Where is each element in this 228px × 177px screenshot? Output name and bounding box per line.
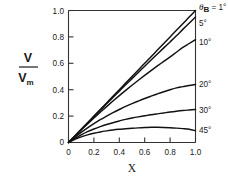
y-axis-ticklabels: 0 0.2 0.4 0.6 0.8 1.0 <box>53 7 65 148</box>
y-ticklabel-4: 0.8 <box>53 33 65 42</box>
curve-series-5 <box>69 127 196 142</box>
y-axis-ticks <box>69 11 74 143</box>
chart-legend: θB = 1° 5° 10° 20° 30° 45° <box>199 2 226 136</box>
chart-curves <box>69 11 196 143</box>
y-ticklabel-2: 0.4 <box>53 86 65 95</box>
legend-label-series-2: 10° <box>199 38 211 47</box>
x-ticklabel-0: 0 <box>66 148 71 157</box>
x-ticklabel-4: 0.8 <box>164 148 176 157</box>
legend-label-series-0: θB = 1° <box>199 2 226 14</box>
chart-figure: 0 0.2 0.4 0.6 0.8 1.0 0 0.2 0.4 0.6 0.8 … <box>0 0 228 177</box>
y-axis-title-numerator: V <box>24 51 33 65</box>
y-axis-title: V Vm <box>18 51 38 87</box>
x-axis-title: X <box>128 162 137 174</box>
y-ticklabel-1: 0.2 <box>53 112 65 121</box>
y-ticklabel-3: 0.6 <box>53 59 65 68</box>
x-ticklabel-2: 0.4 <box>114 148 126 157</box>
x-ticklabel-5: 1.0 <box>190 148 202 157</box>
curve-series-4 <box>69 110 196 143</box>
legend-label-series-1: 5° <box>199 19 207 28</box>
curve-series-3 <box>69 84 196 142</box>
x-ticklabel-3: 0.6 <box>139 148 151 157</box>
legend-label-series-3: 20° <box>199 80 211 89</box>
chart-svg: 0 0.2 0.4 0.6 0.8 1.0 0 0.2 0.4 0.6 0.8 … <box>0 0 228 177</box>
x-axis-ticks <box>69 138 196 143</box>
y-ticklabel-0: 0 <box>59 138 64 147</box>
legend-label-series-5: 45° <box>199 126 211 135</box>
legend-label-series-4: 30° <box>199 106 211 115</box>
y-ticklabel-5: 1.0 <box>53 7 65 16</box>
x-axis-ticklabels: 0 0.2 0.4 0.6 0.8 1.0 <box>66 148 201 157</box>
x-ticklabel-1: 0.2 <box>88 148 100 157</box>
y-axis-title-denominator: Vm <box>18 71 33 87</box>
